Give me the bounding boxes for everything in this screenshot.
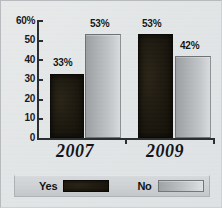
x-axis-group-separator-tick: [125, 139, 127, 144]
chart-legend: Yes No: [14, 175, 210, 197]
x-axis-label-2009: 2009: [146, 141, 184, 162]
y-tick-label-50: 50: [24, 35, 35, 45]
plot-area: 60% 50 40 30 20 10 0 33% 53% 53% 42% 200…: [1, 1, 222, 151]
y-tick-label-0: 0: [30, 133, 35, 143]
y-axis-tick-20: [37, 99, 43, 101]
y-tick-label-60: 60%: [16, 16, 35, 26]
bar-value-label-2007-yes: 33%: [53, 57, 72, 68]
legend-swatch-no: [158, 180, 204, 192]
x-axis-label-2007: 2007: [56, 141, 94, 162]
legend-item-no: No: [137, 180, 203, 192]
y-tick-label-20: 20: [24, 94, 35, 104]
y-tick-label-10: 10: [24, 113, 35, 123]
y-axis-tick-60: [37, 20, 43, 22]
bar-value-label-2009-no: 42%: [180, 40, 199, 51]
x-axis-end-tick: [213, 139, 215, 144]
legend-swatch-yes: [63, 180, 109, 192]
y-axis-tick-50: [37, 40, 43, 42]
y-tick-label-30: 30: [24, 74, 35, 84]
bar-value-label-2007-no: 53%: [90, 18, 109, 29]
legend-label-no: No: [137, 180, 151, 192]
y-axis-tick-40: [37, 59, 43, 61]
bar-2009-yes: [138, 34, 173, 138]
bar-2009-no: [175, 56, 211, 138]
y-axis-tick-10: [37, 118, 43, 120]
bar-value-label-2009-yes: 53%: [142, 18, 161, 29]
bar-chart-figure: 60% 50 40 30 20 10 0 33% 53% 53% 42% 200…: [0, 0, 222, 208]
y-tick-label-40: 40: [24, 55, 35, 65]
legend-item-yes: Yes: [39, 180, 109, 192]
y-axis-tick-30: [37, 79, 43, 81]
legend-label-yes: Yes: [39, 180, 57, 192]
bar-2007-yes: [50, 74, 84, 138]
y-axis-labels: 60% 50 40 30 20 10 0: [3, 1, 35, 151]
bar-2007-no: [85, 34, 121, 138]
